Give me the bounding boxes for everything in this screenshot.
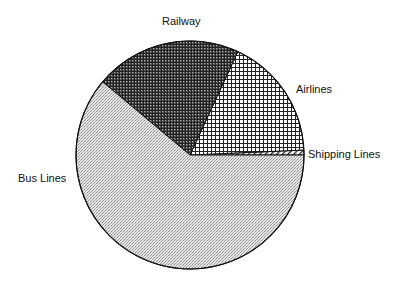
pie-slices (76, 41, 304, 269)
label-railway: Railway (162, 15, 201, 27)
label-shipping-lines: Shipping Lines (308, 148, 381, 160)
label-bus-lines: Bus Lines (18, 172, 67, 184)
pie-chart: RailwayAirlinesShipping LinesBus Lines (0, 0, 402, 286)
label-airlines: Airlines (296, 83, 333, 95)
